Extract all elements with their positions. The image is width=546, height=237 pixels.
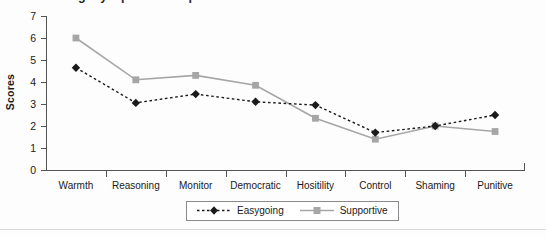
data-point-easygoing-control xyxy=(371,128,379,136)
legend-label-supportive: Supportive xyxy=(339,205,388,216)
x-tick xyxy=(345,170,346,177)
y-tick-label: 5 xyxy=(16,55,36,65)
data-point-supportive-punitive xyxy=(492,128,499,135)
x-tick xyxy=(166,170,167,177)
data-point-supportive-reasoning xyxy=(132,76,139,83)
y-tick xyxy=(41,170,46,171)
data-point-supportive-monitor xyxy=(192,72,199,79)
data-point-supportive-democratic xyxy=(252,82,259,89)
x-tick xyxy=(286,170,287,177)
x-tick xyxy=(106,170,107,177)
y-axis-label: Scores xyxy=(4,62,16,122)
chart-legend: Easygoing Supportive xyxy=(186,201,399,221)
data-point-easygoing-punitive xyxy=(491,111,499,119)
x-tick-label-reasoning: Reasoning xyxy=(106,180,166,191)
y-tick-label: 4 xyxy=(16,77,36,87)
x-tick xyxy=(405,170,406,177)
data-point-supportive-hositility xyxy=(312,115,319,122)
y-tick-label: 3 xyxy=(16,99,36,109)
x-tick xyxy=(465,170,466,177)
chart-title: Parenting style profile comparison xyxy=(28,0,234,3)
data-point-easygoing-monitor xyxy=(191,90,199,98)
legend-label-easygoing: Easygoing xyxy=(236,205,284,216)
y-tick-label: 0 xyxy=(16,165,36,175)
legend-item-supportive[interactable]: Supportive xyxy=(300,205,388,216)
x-tick-label-warmth: Warmth xyxy=(46,180,106,191)
legend-swatch-easygoing xyxy=(197,205,231,216)
x-tick-label-democratic: Democratic xyxy=(226,180,286,191)
data-point-easygoing-democratic xyxy=(251,98,259,106)
x-tick-label-shaming: Shaming xyxy=(405,180,465,191)
series-plot-area xyxy=(46,16,525,170)
x-tick-label-hositility: Hositility xyxy=(286,180,346,191)
x-tick-label-control: Control xyxy=(345,180,405,191)
y-tick-label: 7 xyxy=(16,11,36,21)
line-chart: Parenting style profile comparison Score… xyxy=(0,0,546,237)
data-point-easygoing-warmth xyxy=(72,64,80,72)
y-tick-label: 1 xyxy=(16,143,36,153)
data-point-easygoing-reasoning xyxy=(132,99,140,107)
data-point-supportive-control xyxy=(372,136,379,143)
data-point-supportive-warmth xyxy=(73,35,80,42)
x-tick-label-monitor: Monitor xyxy=(166,180,226,191)
data-point-easygoing-hositility xyxy=(311,101,319,109)
y-tick-label: 6 xyxy=(16,33,36,43)
bottom-divider xyxy=(0,229,546,230)
legend-swatch-supportive xyxy=(300,205,334,216)
x-tick-label-punitive: Punitive xyxy=(465,180,525,191)
y-tick-label: 2 xyxy=(16,121,36,131)
x-tick xyxy=(226,170,227,177)
chart-title-clipped: Parenting style profile comparison xyxy=(0,0,546,7)
legend-item-easygoing[interactable]: Easygoing xyxy=(197,205,284,216)
